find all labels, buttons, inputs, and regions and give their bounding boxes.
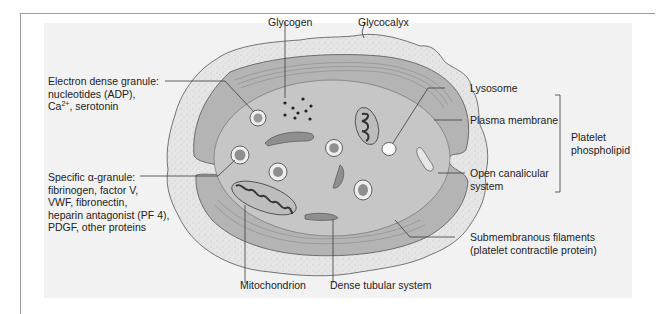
label-lysosome: Lysosome: [470, 82, 517, 95]
label-platelet-phospholipid: Platelet phospholipid: [571, 131, 630, 156]
label-glycocalyx: Glycocalyx: [358, 16, 409, 29]
label-open-canalicular-system: Open canalicular system: [470, 167, 549, 192]
label-electron-dense-granule: Electron dense granule: nucleotides (ADP…: [48, 75, 159, 113]
electron-dense-granule: [250, 110, 266, 126]
label-mitochondrion: Mitochondrion: [240, 279, 306, 292]
label-plasma-membrane: Plasma membrane: [470, 114, 558, 127]
cytoplasm: [214, 80, 450, 236]
label-submembranous-filaments: Submembranous filaments (platelet contra…: [470, 231, 597, 256]
lysosome: [382, 143, 396, 156]
platelet-diagram: [0, 0, 657, 314]
label-dense-tubular-system: Dense tubular system: [330, 279, 432, 292]
label-glycogen: Glycogen: [268, 16, 312, 29]
label-alpha-granule: Specific α-granule: fibrinogen, factor V…: [48, 171, 169, 234]
